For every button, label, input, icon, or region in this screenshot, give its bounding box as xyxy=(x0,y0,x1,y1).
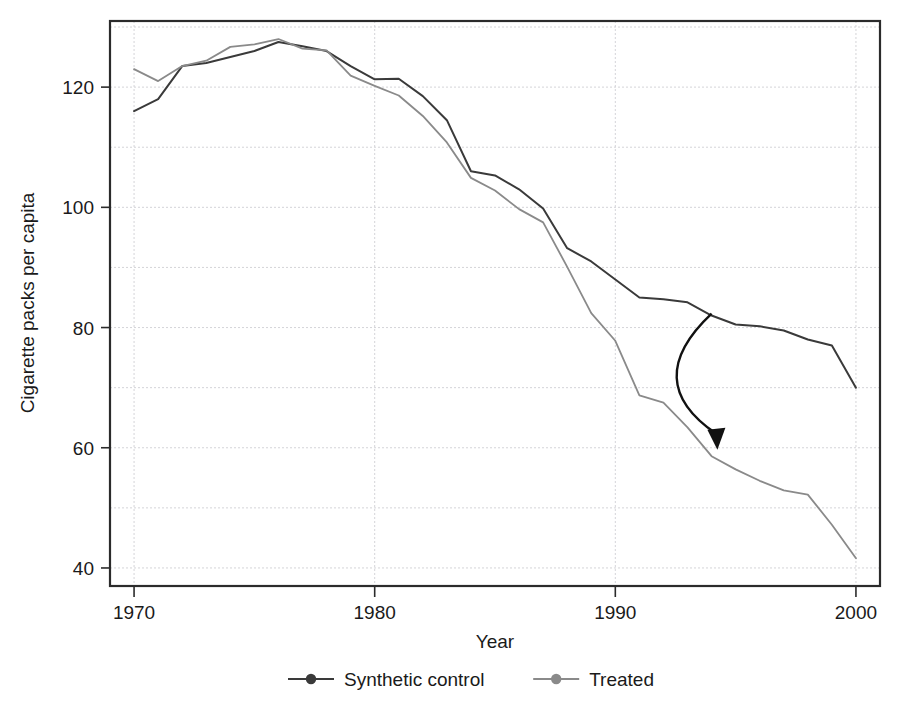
annotation-arrow-curve xyxy=(677,314,717,434)
data-series xyxy=(134,39,856,558)
y-tick-label: 120 xyxy=(62,77,94,98)
legend-marker-icon xyxy=(551,674,561,684)
x-tick-labels: 1970198019902000 xyxy=(113,602,877,623)
legend-marker-icon xyxy=(306,674,316,684)
x-tick-label: 2000 xyxy=(835,602,877,623)
annotation-arrowhead-icon xyxy=(707,428,725,450)
y-tick-label: 100 xyxy=(62,197,94,218)
series-line-synthetic-control xyxy=(134,42,856,388)
x-axis-title: Year xyxy=(476,631,515,652)
x-tick-label: 1990 xyxy=(594,602,636,623)
effect-arrow-annotation xyxy=(677,314,726,450)
figure-container: 406080100120 1970198019902000 Year Cigar… xyxy=(0,0,903,708)
legend-label: Treated xyxy=(589,669,654,690)
legend-label: Synthetic control xyxy=(344,669,484,690)
y-tick-label: 60 xyxy=(73,438,94,459)
x-tickmarks xyxy=(134,586,856,597)
y-tick-label: 80 xyxy=(73,318,94,339)
y-tick-labels: 406080100120 xyxy=(62,77,94,579)
y-axis-title: Cigarette packs per capita xyxy=(17,192,38,413)
x-tick-label: 1980 xyxy=(354,602,396,623)
y-tick-label: 40 xyxy=(73,558,94,579)
y-tickmarks xyxy=(101,87,110,568)
series-line-treated xyxy=(134,39,856,558)
line-chart: 406080100120 1970198019902000 Year Cigar… xyxy=(0,0,903,708)
chart-legend: Synthetic controlTreated xyxy=(288,669,654,690)
x-tick-label: 1970 xyxy=(113,602,155,623)
x-gridlines xyxy=(134,21,856,586)
y-gridlines xyxy=(110,27,880,568)
plot-frame xyxy=(110,21,880,586)
